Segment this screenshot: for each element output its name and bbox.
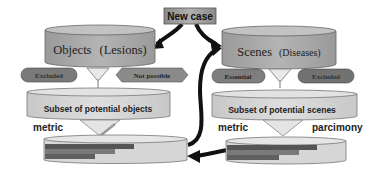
left-metric-funnel — [80, 120, 120, 136]
funnel-icon-left — [87, 68, 109, 88]
essential-label: Essential — [225, 73, 252, 81]
excluded-label-right: Excluded — [312, 73, 340, 81]
diagram-canvas: New case Objects (Lesions) Scenes (Disea… — [0, 0, 389, 176]
subset-potential-scenes: Subset of potential scenes — [212, 90, 357, 120]
scenes-title: Scenes — [237, 45, 272, 59]
new-case-label: New case — [167, 11, 213, 22]
arrow-head-objects-result — [187, 150, 200, 163]
objects-ranked-results — [44, 135, 187, 164]
not-possible-label: Not possible — [134, 72, 170, 80]
left-metric-label: metric — [33, 122, 63, 133]
objects-database-cylinder: Objects (Lesions) — [45, 25, 155, 67]
right-metric-funnel — [263, 120, 303, 136]
objects-subtitle: (Lesions) — [99, 43, 146, 57]
scenes-database-cylinder: Scenes (Diseases) — [222, 26, 336, 69]
subset-scenes-label: Subset of potential scenes — [228, 105, 336, 115]
right-filter-row: Essential Excluded — [212, 69, 354, 88]
subset-objects-label: Subset of potential objects — [44, 104, 153, 114]
new-case-node: New case — [164, 8, 216, 24]
funnel-icon-right — [269, 69, 291, 88]
scenes-ranked-results — [226, 137, 346, 164]
right-metric-label: metric — [218, 122, 248, 133]
svg-text:Objects (Lesions): Objects (Lesions) — [53, 40, 146, 57]
parcimony-label: parcimony — [312, 122, 363, 133]
left-filter-row: Excluded Not possible — [21, 68, 188, 88]
excluded-label-left: Excluded — [35, 72, 63, 80]
scenes-subtitle: (Diseases) — [279, 47, 321, 59]
subset-potential-objects: Subset of potential objects — [27, 88, 170, 120]
objects-title: Objects — [53, 43, 91, 57]
arrow-scenes-result-to-objects — [196, 150, 228, 156]
